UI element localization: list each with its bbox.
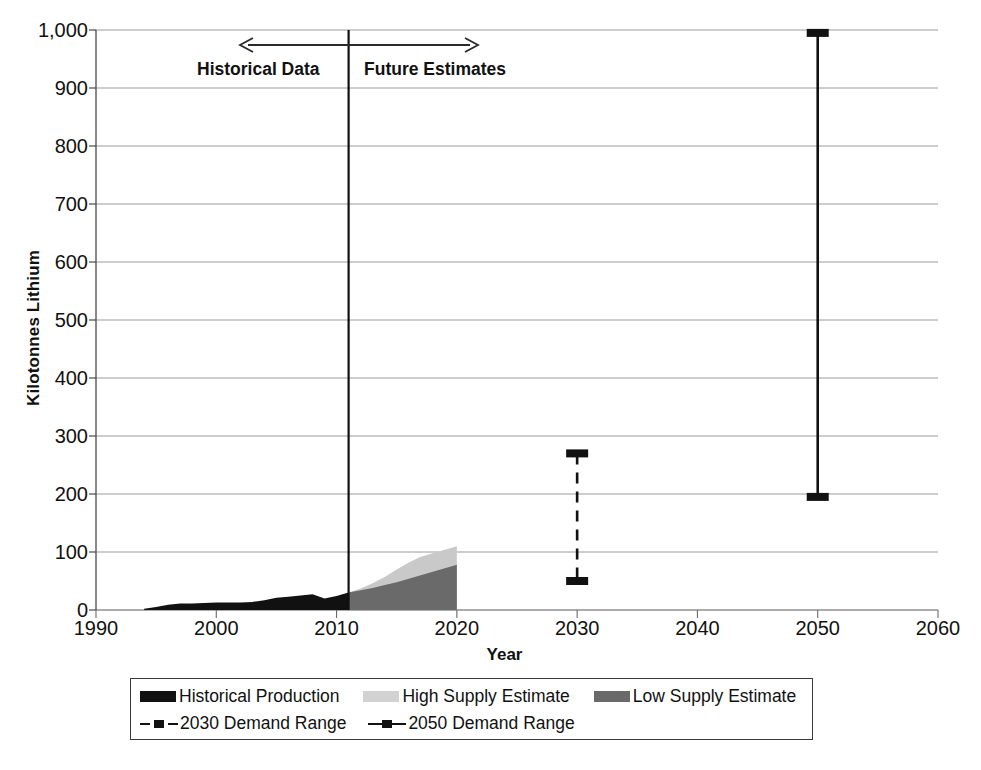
- x-tick-label: 2040: [647, 617, 747, 640]
- demand-range-cap-2030-low: [566, 577, 588, 585]
- legend-item: 2030 Demand Range: [140, 715, 346, 733]
- dashed-line-icon: [140, 718, 178, 730]
- area-historical-production: [144, 593, 348, 610]
- legend-row-secondary: 2030 Demand Range2050 Demand Range: [131, 710, 812, 737]
- legend-row-primary: Historical ProductionHigh Supply Estimat…: [131, 683, 812, 710]
- chart-legend: Historical ProductionHigh Supply Estimat…: [130, 678, 813, 740]
- lithium-supply-demand-chart: Kilotonnes Lithium 1,0009008007006005004…: [0, 0, 981, 770]
- x-tick-label: 1990: [46, 617, 146, 640]
- legend-label: Historical Production: [179, 688, 339, 706]
- historical-data-label: Historical Data: [197, 59, 320, 80]
- legend-item: Historical Production: [140, 688, 339, 706]
- future-estimates-label: Future Estimates: [364, 59, 506, 80]
- legend-item: Low Supply Estimate: [594, 688, 796, 706]
- legend-swatch-icon: [140, 691, 176, 702]
- legend-item: High Supply Estimate: [363, 688, 569, 706]
- x-tick-label: 2050: [768, 617, 868, 640]
- x-tick-label: 2020: [407, 617, 507, 640]
- demand-range-cap-2050-high: [807, 29, 829, 37]
- legend-label: High Supply Estimate: [402, 688, 569, 706]
- x-tick-label: 2000: [166, 617, 266, 640]
- demand-range-cap-2030-high: [566, 449, 588, 457]
- legend-swatch-icon: [363, 691, 399, 702]
- solid-line-icon: [368, 718, 406, 730]
- legend-swatch-icon: [594, 691, 630, 702]
- legend-label: Low Supply Estimate: [633, 688, 796, 706]
- legend-label: 2050 Demand Range: [408, 715, 574, 733]
- x-tick-label: 2010: [287, 617, 387, 640]
- plot-area: [0, 0, 981, 660]
- x-tick-label: 2060: [888, 617, 981, 640]
- x-tick-label: 2030: [527, 617, 627, 640]
- demand-range-cap-2050-low: [807, 493, 829, 501]
- legend-label: 2030 Demand Range: [180, 715, 346, 733]
- legend-item: 2050 Demand Range: [368, 715, 574, 733]
- x-axis-title: Year: [14, 645, 981, 665]
